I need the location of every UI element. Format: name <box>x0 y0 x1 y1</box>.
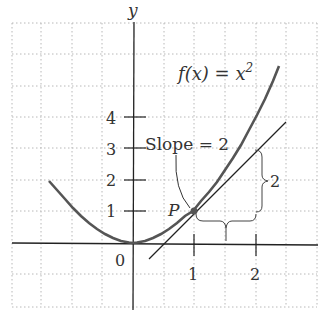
x-tick-label-1: 1 <box>188 265 198 284</box>
y-tick-label-2: 2 <box>106 171 116 190</box>
slope-label: Slope = 2 <box>145 134 229 154</box>
y-ticks <box>124 117 146 211</box>
y-tick-label-1: 1 <box>106 202 116 221</box>
function-label-text: f(x) = x <box>176 63 246 84</box>
point-p-label: P <box>167 200 180 220</box>
point-p <box>191 208 198 215</box>
y-axis-label: y <box>127 0 138 20</box>
y-tick-label-4: 4 <box>106 109 116 128</box>
y-tick-label-3: 3 <box>106 140 116 159</box>
x-tick-label-2: 2 <box>250 265 260 284</box>
parabola-curve <box>48 2 277 218</box>
origin-label: 0 <box>115 251 125 270</box>
rise-brace <box>255 150 268 212</box>
rise-label: 2 <box>270 172 280 191</box>
grid <box>12 23 317 307</box>
y-axis <box>133 22 134 310</box>
parabola-tangent-diagram: y f(x) = x2 Slope = 2 P 0 1 2 1 2 3 4 2 <box>0 0 326 313</box>
function-label-exponent: 2 <box>245 61 254 75</box>
function-label: f(x) = x2 <box>176 61 253 84</box>
run-brace <box>196 214 256 228</box>
